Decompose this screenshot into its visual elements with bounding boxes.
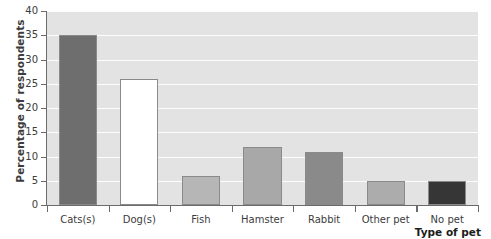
gridline bbox=[47, 84, 478, 85]
y-tick bbox=[41, 11, 47, 12]
x-tick bbox=[293, 206, 294, 212]
bar-no-pet bbox=[428, 181, 466, 205]
y-tick bbox=[41, 157, 47, 158]
x-tick bbox=[416, 206, 417, 212]
bar-dog-s bbox=[120, 79, 158, 205]
x-tick bbox=[109, 206, 110, 212]
y-tick bbox=[41, 60, 47, 61]
y-tick-label: 15 bbox=[0, 126, 38, 137]
bar-hamster bbox=[243, 147, 281, 205]
x-label-other-pet: Other pet bbox=[362, 214, 410, 225]
x-tick bbox=[170, 206, 171, 212]
bar-other-pet bbox=[367, 181, 405, 205]
gridline bbox=[47, 60, 478, 61]
gridline bbox=[47, 11, 478, 12]
x-label-dog-s: Dog(s) bbox=[123, 214, 156, 225]
plot-area bbox=[47, 11, 478, 205]
y-tick bbox=[41, 181, 47, 182]
x-label-hamster: Hamster bbox=[241, 214, 284, 225]
y-tick-label: 20 bbox=[0, 102, 38, 113]
gridline bbox=[47, 132, 478, 133]
y-tick bbox=[41, 35, 47, 36]
y-tick bbox=[41, 108, 47, 109]
bar-fish bbox=[182, 176, 220, 205]
y-tick bbox=[41, 132, 47, 133]
y-tick bbox=[41, 84, 47, 85]
y-tick-label: 0 bbox=[0, 199, 38, 210]
gridline bbox=[47, 35, 478, 36]
bar-cats-s bbox=[59, 35, 97, 205]
gridline bbox=[47, 108, 478, 109]
x-tick bbox=[478, 206, 479, 212]
x-tick bbox=[355, 206, 356, 212]
x-tick bbox=[47, 206, 48, 212]
y-tick-label: 40 bbox=[0, 5, 38, 16]
bar-rabbit bbox=[305, 152, 343, 205]
x-label-fish: Fish bbox=[191, 214, 210, 225]
y-tick-label: 5 bbox=[0, 175, 38, 186]
y-tick-label: 35 bbox=[0, 29, 38, 40]
x-axis-title: Type of pet bbox=[415, 226, 481, 238]
x-label-cats-s: Cats(s) bbox=[60, 214, 95, 225]
y-tick-label: 10 bbox=[0, 151, 38, 162]
y-tick-label: 25 bbox=[0, 78, 38, 89]
x-label-rabbit: Rabbit bbox=[308, 214, 340, 225]
x-axis-line bbox=[46, 205, 479, 206]
y-tick-label: 30 bbox=[0, 54, 38, 65]
x-tick bbox=[232, 206, 233, 212]
bar-chart: Percentage of respondents 05101520253035… bbox=[0, 0, 491, 239]
x-label-no-pet: No pet bbox=[431, 214, 464, 225]
